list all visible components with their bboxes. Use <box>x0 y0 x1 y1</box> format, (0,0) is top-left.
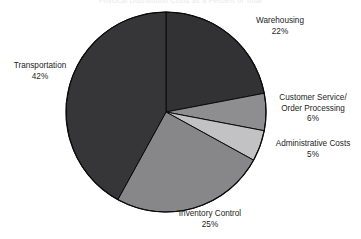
slice-label-inventory-control-value: 25% <box>160 220 260 231</box>
slice-label-customer-service-text-line1: Customer Service/ <box>265 93 361 104</box>
slice-label-customer-service-text-line2: Order Processing <box>265 104 361 115</box>
slice-label-administrative-costs: Administrative Costs 5% <box>265 139 361 160</box>
slice-label-inventory-control-text: Inventory Control <box>160 209 260 220</box>
slice-label-warehousing: Warehousing 22% <box>228 16 332 37</box>
slice-label-customer-service: Customer Service/ Order Processing 6% <box>265 93 361 125</box>
slice-label-transportation: Transportation 42% <box>2 61 78 82</box>
slice-label-inventory-control: Inventory Control 25% <box>160 209 260 230</box>
pie-chart-figure: Physical Distribution Costs as a Percent… <box>0 0 361 239</box>
slice-label-transportation-value: 42% <box>2 72 78 83</box>
slice-label-warehousing-text: Warehousing <box>228 16 332 27</box>
slice-label-transportation-text: Transportation <box>2 61 78 72</box>
slice-label-customer-service-value: 6% <box>265 114 361 125</box>
slice-label-administrative-costs-text: Administrative Costs <box>265 139 361 150</box>
slice-label-administrative-costs-value: 5% <box>265 150 361 161</box>
slice-label-warehousing-value: 22% <box>228 27 332 38</box>
